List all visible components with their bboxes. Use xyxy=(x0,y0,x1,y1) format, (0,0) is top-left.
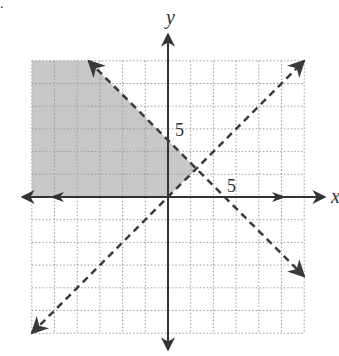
x-axis-label: x xyxy=(330,185,339,207)
y-tick-label-5: 5 xyxy=(175,120,184,140)
coordinate-graph: y x 5 5 . xyxy=(0,0,339,356)
y-axis-label: y xyxy=(164,6,175,29)
corner-mark: . xyxy=(0,0,4,11)
x-tick-label-5: 5 xyxy=(227,176,236,196)
